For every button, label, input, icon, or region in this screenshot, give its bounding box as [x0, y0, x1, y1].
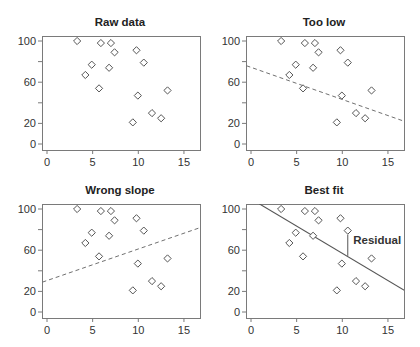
y-tick-label: 100 — [222, 35, 240, 47]
x-tick-label: 0 — [248, 156, 254, 168]
diamond-marker — [292, 61, 299, 68]
x-tick-label: 10 — [336, 156, 348, 168]
y-tick-label: 60 — [228, 244, 240, 256]
diamond-marker — [88, 61, 95, 68]
diamond-marker — [74, 205, 81, 212]
diamond-marker — [97, 39, 104, 46]
x-tick-label: 10 — [132, 156, 144, 168]
diamond-marker — [140, 59, 147, 66]
plot-frame — [43, 37, 201, 151]
diamond-marker — [333, 119, 340, 126]
y-tick-label: 20 — [228, 117, 240, 129]
diamond-marker — [368, 255, 375, 262]
diamond-marker — [134, 260, 141, 267]
diamond-marker — [368, 87, 375, 94]
y-tick-label: 0 — [234, 138, 240, 150]
diamond-marker — [158, 283, 165, 290]
diamond-marker — [82, 239, 89, 246]
diamond-marker — [95, 85, 102, 92]
diamond-marker — [278, 37, 285, 44]
y-tick-label: 60 — [228, 76, 240, 88]
diamond-marker — [292, 229, 299, 236]
diamond-marker — [164, 255, 171, 262]
diamond-marker — [129, 119, 136, 126]
y-tick-label: 20 — [228, 285, 240, 297]
diamond-marker — [95, 253, 102, 260]
diamond-marker — [133, 215, 140, 222]
diamond-marker — [301, 39, 308, 46]
diamond-marker — [148, 110, 155, 117]
diamond-marker — [82, 71, 89, 78]
x-tick-label: 15 — [178, 156, 190, 168]
diamond-marker — [278, 205, 285, 212]
diamond-marker — [286, 239, 293, 246]
diamond-marker — [337, 215, 344, 222]
residual-label: Residual — [353, 234, 401, 246]
x-tick-label: 0 — [44, 156, 50, 168]
plot-frame — [43, 205, 201, 319]
diamond-marker — [309, 64, 316, 71]
x-tick-label: 10 — [336, 324, 348, 336]
diamond-marker — [107, 39, 114, 46]
diamond-marker — [97, 207, 104, 214]
panel-best-fit: Best fit02060100051015Residual — [222, 184, 405, 336]
diamond-marker — [309, 232, 316, 239]
diamond-marker — [299, 85, 306, 92]
diamond-marker — [286, 71, 293, 78]
dashed-trend-line — [246, 66, 404, 122]
y-tick-label: 60 — [24, 76, 36, 88]
x-tick-label: 0 — [44, 324, 50, 336]
diamond-marker — [105, 64, 112, 71]
diamond-marker — [315, 49, 322, 56]
best-fit-line — [259, 204, 404, 291]
diamond-marker — [111, 217, 118, 224]
figure: Raw data02060100051015 Too low0206010005… — [0, 0, 420, 347]
diamond-marker — [301, 207, 308, 214]
diamond-marker — [134, 92, 141, 99]
plot-frame — [247, 37, 405, 151]
y-tick-label: 60 — [24, 244, 36, 256]
diamond-marker — [74, 37, 81, 44]
diamond-marker — [337, 47, 344, 54]
y-tick-label: 20 — [24, 285, 36, 297]
x-tick-label: 5 — [294, 324, 300, 336]
diamond-marker — [111, 49, 118, 56]
y-tick-label: 0 — [30, 138, 36, 150]
y-tick-label: 20 — [24, 117, 36, 129]
diamond-marker — [133, 47, 140, 54]
x-tick-label: 5 — [294, 156, 300, 168]
diamond-marker — [299, 253, 306, 260]
diamond-marker — [333, 287, 340, 294]
plot-frame — [247, 205, 405, 319]
x-tick-label: 10 — [132, 324, 144, 336]
x-tick-label: 0 — [248, 324, 254, 336]
diamond-marker — [352, 278, 359, 285]
panel-raw-data: Raw data02060100051015 — [18, 16, 201, 168]
diamond-marker — [105, 232, 112, 239]
x-tick-label: 15 — [178, 324, 190, 336]
dashed-trend-line — [42, 228, 200, 283]
diamond-marker — [315, 217, 322, 224]
y-tick-label: 100 — [222, 203, 240, 215]
diamond-marker — [148, 278, 155, 285]
x-tick-label: 15 — [382, 156, 394, 168]
diamond-marker — [362, 283, 369, 290]
diamond-marker — [140, 227, 147, 234]
diamond-marker — [129, 287, 136, 294]
y-tick-label: 100 — [18, 35, 36, 47]
panel-title: Too low — [303, 16, 346, 28]
diamond-marker — [344, 59, 351, 66]
diamond-marker — [352, 110, 359, 117]
y-tick-label: 0 — [234, 306, 240, 318]
x-tick-label: 5 — [90, 324, 96, 336]
y-tick-label: 0 — [30, 306, 36, 318]
y-tick-label: 100 — [18, 203, 36, 215]
x-tick-label: 5 — [90, 156, 96, 168]
diamond-marker — [107, 207, 114, 214]
diamond-marker — [311, 39, 318, 46]
panel-too-low: Too low02060100051015 — [222, 16, 405, 168]
panel-title: Best fit — [305, 184, 344, 196]
panel-title: Wrong slope — [85, 184, 154, 196]
panel-wrong-slope: Wrong slope02060100051015 — [18, 184, 201, 336]
panel-title: Raw data — [95, 16, 146, 28]
